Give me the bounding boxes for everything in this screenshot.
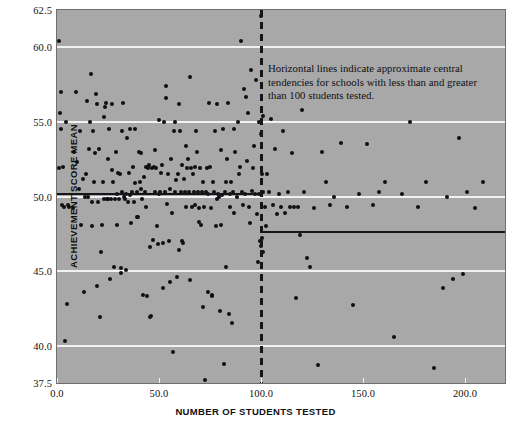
data-point <box>235 195 239 199</box>
data-point <box>162 120 166 124</box>
data-point <box>302 190 306 194</box>
data-point <box>94 92 98 96</box>
data-point <box>173 120 177 124</box>
data-point <box>229 180 233 184</box>
data-point <box>263 205 267 209</box>
data-point <box>133 181 137 185</box>
data-point <box>207 101 211 105</box>
y-tick-mark-5 <box>57 47 62 48</box>
data-point <box>188 278 192 282</box>
data-point <box>97 147 101 151</box>
data-point <box>191 172 195 176</box>
data-point <box>82 290 86 294</box>
data-point <box>408 120 412 124</box>
data-point <box>156 242 160 246</box>
data-point <box>277 192 281 196</box>
data-point <box>208 165 212 169</box>
y-tick-label-3: 50.0 <box>33 191 52 202</box>
y-tick-label-4: 55.0 <box>33 116 52 127</box>
data-point <box>161 241 165 245</box>
data-point <box>111 180 115 184</box>
data-point <box>441 286 445 290</box>
data-point <box>119 271 123 275</box>
data-point <box>308 265 312 269</box>
y-tick-label-1: 40.0 <box>33 340 52 351</box>
data-point <box>182 177 186 181</box>
data-point <box>119 266 123 270</box>
data-point <box>219 148 223 152</box>
data-point <box>294 296 298 300</box>
data-point <box>251 166 255 170</box>
x-tick-label-3: 150.0 <box>351 388 375 399</box>
data-point <box>139 187 143 191</box>
scatter-plot-figure: 0.050.0100.0150.0200.0 37.540.045.050.05… <box>0 0 511 427</box>
data-point <box>244 95 248 99</box>
gridline-y-40 <box>57 345 505 347</box>
data-point <box>213 129 217 133</box>
x-tick-mark-1 <box>159 378 160 383</box>
x-tick-label-1: 50.0 <box>150 388 169 399</box>
x-tick-label-4: 200.0 <box>453 388 477 399</box>
data-point <box>324 180 328 184</box>
data-point <box>175 275 179 279</box>
data-point <box>58 111 62 115</box>
data-point <box>345 205 349 209</box>
data-point <box>148 245 152 249</box>
data-point <box>104 101 108 105</box>
data-point <box>95 102 99 106</box>
y-axis-title: ACHIEVEMENT SCORE MEAN <box>68 124 79 268</box>
data-point <box>236 120 240 124</box>
y-tick-label-5: 60.0 <box>33 42 52 53</box>
data-point <box>138 180 142 184</box>
y-tick-label-0: 37.5 <box>33 378 52 389</box>
data-point <box>445 195 449 199</box>
gridline-y-60 <box>57 46 505 48</box>
x-tick-mark-2 <box>261 378 262 383</box>
data-point <box>252 144 256 148</box>
data-point <box>159 171 163 175</box>
data-point <box>238 165 242 169</box>
data-point <box>144 205 148 209</box>
students-tested-100-divider <box>260 10 263 383</box>
data-point <box>249 68 253 72</box>
data-point <box>392 335 396 339</box>
data-point <box>168 187 172 191</box>
data-point <box>400 192 404 196</box>
data-point <box>357 192 361 196</box>
data-point <box>194 129 198 133</box>
data-point <box>63 339 67 343</box>
data-point <box>254 78 258 82</box>
data-point <box>89 72 93 76</box>
data-point <box>222 362 226 366</box>
data-point <box>176 172 180 176</box>
gridline-y-55 <box>57 121 505 123</box>
data-point <box>101 180 105 184</box>
data-point <box>424 180 428 184</box>
data-point <box>184 144 188 148</box>
data-point <box>87 147 91 151</box>
data-point <box>88 120 92 124</box>
x-tick-label-0: 0.0 <box>50 388 63 399</box>
data-point <box>226 101 230 105</box>
data-point <box>127 171 131 175</box>
y-tick-mark-4 <box>57 122 62 123</box>
x-tick-mark-3 <box>363 378 364 383</box>
data-point <box>339 141 343 145</box>
data-point <box>118 172 122 176</box>
data-point <box>195 150 199 154</box>
data-point <box>242 87 246 91</box>
y-tick-label-2: 45.0 <box>33 266 52 277</box>
data-point <box>112 265 116 269</box>
data-point <box>211 180 215 184</box>
data-point <box>451 277 455 281</box>
data-point <box>247 205 251 209</box>
y-tick-label-6: 62.5 <box>33 5 52 16</box>
data-point <box>121 101 125 105</box>
data-point <box>177 248 181 252</box>
x-axis-title: NUMBER OF STUDENTS TESTED <box>0 406 511 417</box>
data-point <box>181 241 185 245</box>
data-point <box>246 111 250 115</box>
x-tick-mark-0 <box>57 378 58 383</box>
central-tendency-over-100 <box>261 231 505 233</box>
data-point <box>288 205 292 209</box>
